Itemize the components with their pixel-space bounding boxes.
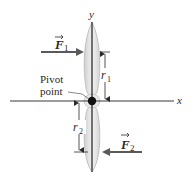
pivot-label-line2: point <box>40 85 63 97</box>
svg-text:2: 2 <box>79 127 83 136</box>
y-axis-label: y <box>88 8 94 20</box>
pivot-label-line1: Pivot <box>40 73 63 85</box>
svg-text:1: 1 <box>64 43 69 53</box>
svg-text:F: F <box>120 137 130 152</box>
x-axis-label: x <box>176 94 182 106</box>
torque-diagram: y x Pivot point F 1 r 1 r 2 F 2 <box>0 0 193 192</box>
svg-text:1: 1 <box>107 75 111 84</box>
pivot-dot <box>88 97 96 105</box>
svg-text:r: r <box>73 120 78 134</box>
force-f1-label: F 1 <box>54 35 69 53</box>
force-f2-label: F 2 <box>120 133 135 153</box>
svg-text:F: F <box>54 37 64 52</box>
svg-text:r: r <box>101 68 106 82</box>
svg-text:2: 2 <box>130 143 135 153</box>
